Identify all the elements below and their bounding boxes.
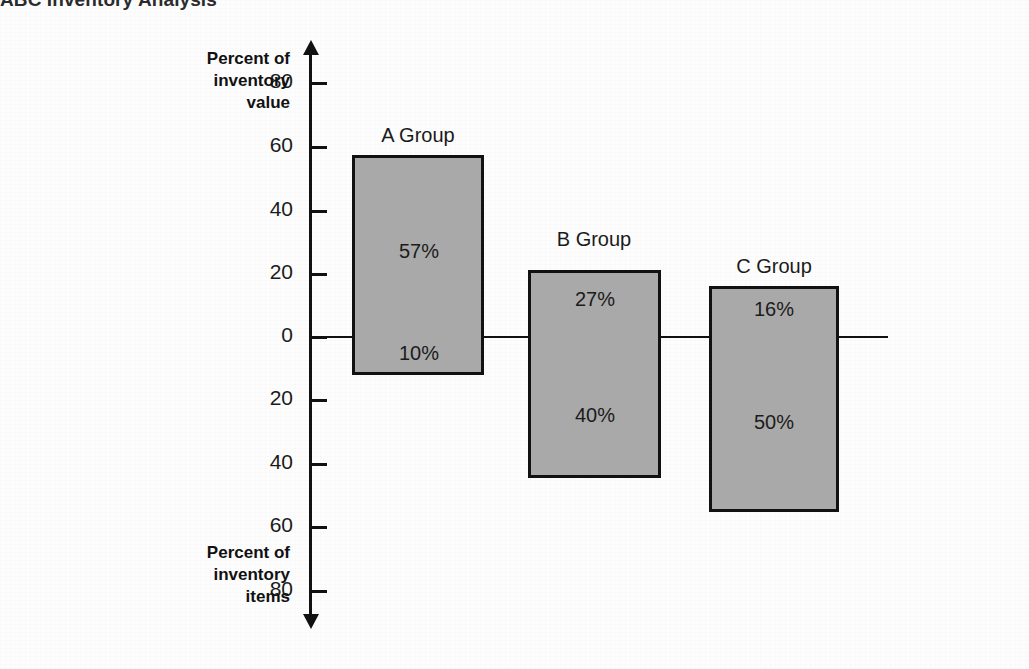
bar-group-label-c: C Group xyxy=(694,255,854,278)
bar-group-label-a: A Group xyxy=(338,124,498,147)
bar-value-b-inventory-items: 40% xyxy=(525,404,665,427)
y-axis-tick-label: 20 xyxy=(233,386,293,410)
y-axis-tick xyxy=(312,590,327,593)
bar-value-a-inventory-value: 57% xyxy=(349,240,489,263)
y-axis-tick-label: 40 xyxy=(233,197,293,221)
y-axis-tick-label: 0 xyxy=(233,323,293,347)
y-axis-tick xyxy=(312,399,327,402)
bar-value-a-inventory-items: 10% xyxy=(349,342,489,365)
y-axis-tick-label: 20 xyxy=(233,260,293,284)
bar-group-label-b: B Group xyxy=(514,228,674,251)
axis-arrow-up-icon xyxy=(303,40,319,55)
y-axis-tick xyxy=(312,146,327,149)
axis-caption-inventory-value: Percent of inventory value xyxy=(140,48,290,113)
y-axis-tick-label: 60 xyxy=(233,513,293,537)
y-axis-tick xyxy=(312,210,327,213)
y-axis-tick xyxy=(312,273,327,276)
y-axis-tick xyxy=(312,82,327,85)
bar-value-b-inventory-value: 27% xyxy=(525,288,665,311)
y-axis-tick-label: 60 xyxy=(233,133,293,157)
y-axis-tick xyxy=(312,526,327,529)
bar-value-c-inventory-value: 16% xyxy=(704,298,844,321)
y-axis-tick xyxy=(312,463,327,466)
axis-caption-inventory-items: Percent of inventory items xyxy=(140,542,290,607)
page-title: ABC Inventory Analysis xyxy=(0,0,217,11)
y-axis-tick-label: 40 xyxy=(233,450,293,474)
bar-value-c-inventory-items: 50% xyxy=(704,411,844,434)
axis-arrow-down-icon xyxy=(303,614,319,629)
chart-page: ABC Inventory Analysis 80604020020406080… xyxy=(0,0,1029,669)
